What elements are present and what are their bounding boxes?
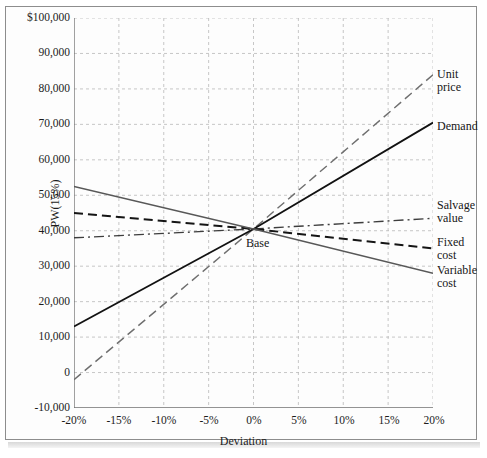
series-label-line: price <box>437 81 461 94</box>
series-label-unit-price: Unit price <box>437 68 461 94</box>
series-label-salvage-value: Salvage value <box>437 199 475 225</box>
series-label-line: Demand <box>437 120 478 133</box>
y-tick-label: $100,000 <box>4 12 70 23</box>
series-label-line: cost <box>437 277 477 290</box>
x-axis-title: Deviation <box>0 434 487 449</box>
y-tick-label: 0 <box>4 367 70 378</box>
series-label-variable-cost: Variable cost <box>437 264 477 290</box>
y-tick-label: 70,000 <box>4 118 70 129</box>
y-tick-label: 10,000 <box>4 331 70 342</box>
y-tick-label: 90,000 <box>4 47 70 58</box>
y-tick-label: 20,000 <box>4 296 70 307</box>
y-tick-label: -10,000 <box>4 402 70 413</box>
y-tick-label: 80,000 <box>4 83 70 94</box>
x-tick-label: 20% <box>406 414 462 426</box>
series-label-demand: Demand <box>437 120 478 133</box>
series-label-line: value <box>437 212 475 225</box>
y-tick-label: 60,000 <box>4 154 70 165</box>
y-tick-label: 40,000 <box>4 225 70 236</box>
series-label-line: cost <box>437 249 464 262</box>
y-tick-label: 50,000 <box>4 189 70 200</box>
plot-area <box>74 18 433 408</box>
y-tick-label: 30,000 <box>4 260 70 271</box>
gridlines <box>74 18 433 408</box>
plot-svg <box>74 18 433 408</box>
chart-page: PW(15%) Deviation $100,000 90,000 80,000… <box>0 0 487 458</box>
series-label-fixed-cost: Fixed cost <box>437 236 464 262</box>
